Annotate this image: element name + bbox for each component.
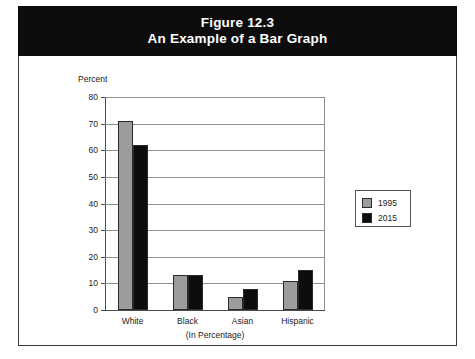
bar bbox=[228, 297, 243, 310]
plot-area: 80706050403020100 WhiteBlackAsianHispani… bbox=[105, 97, 325, 310]
legend-label: 1995 bbox=[378, 198, 397, 208]
y-tick-mark bbox=[101, 310, 105, 311]
y-tick-label: 60 bbox=[89, 145, 98, 155]
x-category-label: Asian bbox=[232, 316, 253, 326]
legend-swatch bbox=[362, 213, 372, 223]
y-tick-mark bbox=[101, 97, 105, 98]
bar bbox=[188, 275, 203, 310]
legend-item: 2015 bbox=[362, 211, 405, 224]
bar bbox=[133, 145, 148, 310]
y-tick-label: 10 bbox=[89, 278, 98, 288]
bar bbox=[298, 270, 313, 310]
legend-label: 2015 bbox=[378, 213, 397, 223]
figure-title-band: Figure 12.3 An Example of a Bar Graph bbox=[18, 6, 457, 56]
figure-body-panel: Percent 80706050403020100 WhiteBlackAsia… bbox=[18, 56, 457, 346]
x-axis-line bbox=[105, 310, 325, 311]
bar-group bbox=[228, 97, 258, 310]
figure-caption: An Example of a Bar Graph bbox=[148, 31, 328, 47]
bar bbox=[243, 289, 258, 310]
y-tick-label: 70 bbox=[89, 119, 98, 129]
y-tick-label: 40 bbox=[89, 199, 98, 209]
y-tick-label: 30 bbox=[89, 225, 98, 235]
x-category-label: White bbox=[122, 316, 144, 326]
y-tick-label: 80 bbox=[89, 92, 98, 102]
y-tick-mark bbox=[101, 230, 105, 231]
y-tick-label: 20 bbox=[89, 252, 98, 262]
legend-swatch bbox=[362, 198, 372, 208]
y-axis-title: Percent bbox=[78, 74, 107, 84]
y-tick-label: 0 bbox=[93, 305, 98, 315]
bar-chart: Percent 80706050403020100 WhiteBlackAsia… bbox=[19, 56, 456, 344]
bar bbox=[118, 121, 133, 310]
y-tick-mark bbox=[101, 124, 105, 125]
x-category-label: Hispanic bbox=[281, 316, 314, 326]
figure-number: Figure 12.3 bbox=[201, 15, 274, 31]
y-tick-mark bbox=[101, 283, 105, 284]
bar bbox=[283, 281, 298, 310]
y-tick-mark bbox=[101, 150, 105, 151]
y-tick-mark bbox=[101, 204, 105, 205]
x-category-label: Black bbox=[177, 316, 198, 326]
bar bbox=[173, 275, 188, 310]
bar-group bbox=[173, 97, 203, 310]
bar-group bbox=[283, 97, 313, 310]
x-axis-caption: (In Percentage) bbox=[105, 330, 325, 340]
bar-group bbox=[118, 97, 148, 310]
legend-item: 1995 bbox=[362, 196, 405, 209]
figure-frame: Figure 12.3 An Example of a Bar Graph Pe… bbox=[18, 6, 457, 346]
chart-legend: 19952015 bbox=[355, 190, 411, 227]
y-tick-mark bbox=[101, 177, 105, 178]
y-tick-mark bbox=[101, 257, 105, 258]
y-tick-label: 50 bbox=[89, 172, 98, 182]
